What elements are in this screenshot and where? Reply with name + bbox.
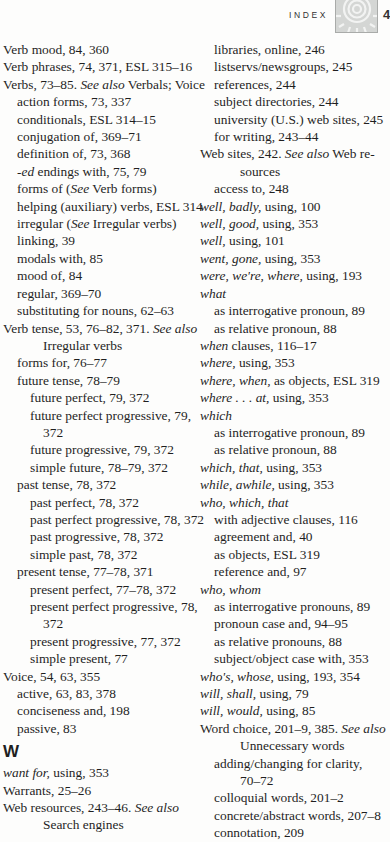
entry-text: Irregular verbs [43,338,122,353]
entry-text: future progressive, 79, 372 [30,442,174,457]
entry-text: linking, 39 [17,233,75,248]
entry-text: Verbals; Voice [125,77,205,92]
italic-term: well, [200,233,226,248]
entry-text: past perfect progressive, 78, 372 [30,512,204,527]
entry-text: as relative pronoun, 88 [214,442,337,457]
entry-text: passive, 83 [17,721,77,736]
index-subentry: forms of (See Verb forms) [3,180,195,197]
entry-text: action forms, 73, 337 [17,94,131,109]
index-subentry: sources [200,163,389,180]
entry-text: listservs/newsgroups, 245 [214,59,352,74]
entry-text: using, 353 [50,765,109,780]
entry-text: present perfect progressive, 78, [30,599,198,614]
italic-term: when [200,338,228,353]
entry-text: regular, 369–70 [17,286,101,301]
index-subentry: 372 [3,424,195,441]
index-entry: where . . . at, using, 353 [200,389,389,406]
index-subentry: as relative pronouns, 88 [200,633,389,650]
index-subentry: present tense, 77–78, 371 [3,563,195,580]
entry-text: using, 353 [236,355,295,370]
entry-text: as objects, ESL 319 [271,373,380,388]
index-column-right: libraries, online, 246listservs/newsgrou… [200,41,389,842]
entry-text: references, 244 [214,77,296,92]
index-subentry: present perfect, 77–78, 372 [3,581,195,598]
index-subentry: modals with, 85 [3,250,195,267]
index-subentry: colloquial words, 201–2 [200,789,389,806]
index-subentry: references, 244 [200,76,389,93]
italic-term: who's, whose, [200,669,274,684]
index-entry: while, awhile, using, 353 [200,476,389,493]
entry-text: using, 353 [261,251,320,266]
index-subentry: subject/object case with, 353 [200,650,389,667]
section-letter-heading: W [3,741,195,763]
italic-term: See [71,181,90,196]
entry-text: modals with, 85 [17,251,103,266]
index-subentry: reference and, 97 [200,563,389,580]
entry-text: subject directories, 244 [214,94,339,109]
index-entry: who's, whose, using, 193, 354 [200,668,389,685]
entry-text: future tense, 78–79 [17,373,120,388]
entry-text: Unnecessary words [240,738,345,753]
index-entry: where, when, as objects, ESL 319 [200,372,389,389]
index-subentry: for writing, 243–44 [200,128,389,145]
index-entry: what [200,285,389,302]
index-subentry: subject directories, 244 [200,93,389,110]
index-entry: where, using, 353 [200,354,389,371]
italic-term: want for, [3,765,50,780]
entry-text: W [3,742,19,761]
entry-text: simple future, 78–79, 372 [30,460,168,475]
index-subentry: simple present, 77 [3,650,195,667]
entry-text: past tense, 78, 372 [17,477,116,492]
entry-text: using, 100 [261,199,320,214]
entry-text: present perfect, 77–78, 372 [30,582,176,597]
page-header: INDEX 4 [0,0,389,36]
sun-spiral-icon [335,0,378,33]
index-entry: well, good, using, 353 [200,215,389,232]
index-subentry: as interrogative pronoun, 89 [200,302,389,319]
entry-text: Web sites, 242. [200,146,285,161]
index-entry: well, using, 101 [200,232,389,249]
entry-text: using, 353 [263,460,322,475]
index-entry: were, we're, where, using, 193 [200,267,389,284]
index-subentry: future tense, 78–79 [3,372,195,389]
entry-text: Irregular verbs) [90,216,177,231]
entry-text: adding/changing for clarity, [214,756,362,771]
index-entry: when clauses, 116–17 [200,337,389,354]
entry-text: helping (auxiliary) verbs, ESL 314 [17,199,203,214]
entry-text: as interrogative pronoun, 89 [214,303,365,318]
index-subentry: passive, 83 [3,720,195,737]
index-subentry: as interrogative pronoun, 89 [200,424,389,441]
italic-term: where, when, [200,373,271,388]
index-subentry: forms for, 76–77 [3,354,195,371]
index-subentry: Search engines [3,816,195,833]
entry-text: conciseness and, 198 [17,703,130,718]
index-subentry: present perfect progressive, 78, [3,598,195,615]
index-subentry: agreement and, 40 [200,528,389,545]
index-subentry: libraries, online, 246 [200,41,389,58]
index-entry: which [200,407,389,424]
italic-term: will, would, [200,703,263,718]
italic-term: well, good, [200,216,259,231]
entry-text: future perfect progressive, 79, [30,408,191,423]
index-subentry: active, 63, 83, 378 [3,685,195,702]
entry-text: conjugation of, 369–71 [17,129,142,144]
index-subentry: as objects, ESL 319 [200,546,389,563]
entry-text: Web re- [329,146,375,161]
italic-term: See also [135,800,179,815]
entry-text: reference and, 97 [214,564,307,579]
italic-term: where . . . at, [200,390,269,405]
index-subentry: future perfect progressive, 79, [3,407,195,424]
entry-text: clauses, 116–17 [228,338,316,353]
entry-text: using, 353 [259,216,318,231]
index-subentry: definition of, 73, 368 [3,145,195,162]
index-entry: will, shall, using, 79 [200,685,389,702]
index-column-left: Verb mood, 84, 360Verb phrases, 74, 371,… [3,41,195,834]
index-subentry: future progressive, 79, 372 [3,441,195,458]
entry-text: forms for, 76–77 [17,355,107,370]
entry-text: definition of, 73, 368 [17,146,130,161]
index-subentry: Unnecessary words [200,737,389,754]
index-subentry: 70–72 [200,772,389,789]
italic-term: will, shall, [200,686,256,701]
index-entry: Voice, 54, 63, 355 [3,668,195,685]
index-subentry: concrete/abstract words, 207–8 [200,807,389,824]
